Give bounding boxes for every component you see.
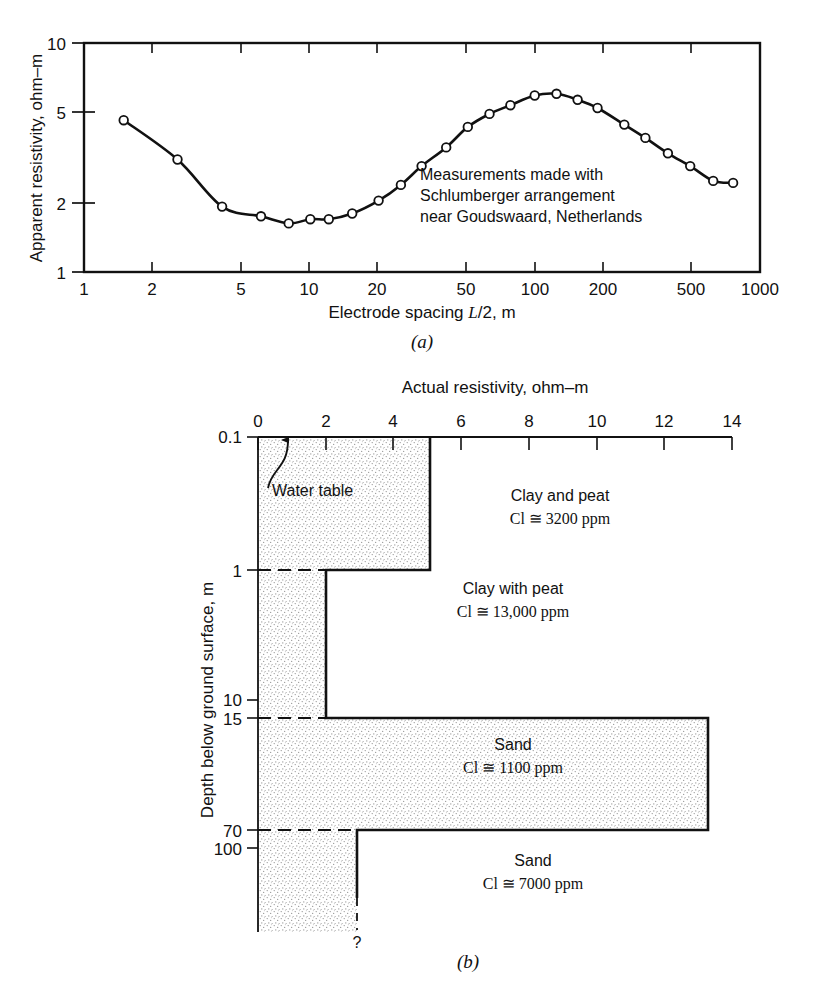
note-line: Schlumberger arrangement	[420, 187, 615, 204]
panel-a-x-axis-title: Electrode spacing L/2, m	[328, 303, 515, 322]
panel-a-x-tick-label: 200	[589, 280, 617, 299]
panel-b-y-axis-title: Depth below ground surface, m	[198, 582, 217, 818]
panel-b-y-tick-labels: 0.1 1 10 15 70 100	[214, 428, 242, 859]
panel-a-x-tick-label: 10	[300, 280, 319, 299]
data-point-marker	[620, 120, 629, 129]
panel-a-measurement-note: Measurements made with Schlumberger arra…	[420, 166, 642, 225]
layer-name: Sand	[494, 736, 531, 753]
data-point-marker	[464, 123, 473, 132]
panel-b-y-tick-label: 10	[223, 691, 242, 710]
panel-b-y-tick-label: 15	[223, 710, 242, 729]
panel-b-y-tick-label: 0.1	[218, 428, 242, 447]
note-line: Measurements made with	[420, 166, 603, 183]
panel-b-unknown-depth-marker: ?	[353, 934, 362, 951]
layer-cl: Cl ≅ 3200 ppm	[510, 510, 611, 528]
panel-b-layer-labels: Clay and peat Cl ≅ 3200 ppm Clay with pe…	[457, 487, 611, 893]
panel-b-x-tick-label: 4	[388, 412, 397, 431]
panel-a-y-tick-label: 2	[57, 195, 66, 214]
panel-b-x-tick-label: 14	[723, 412, 742, 431]
layer-name: Clay with peat	[463, 580, 564, 597]
data-point-marker	[573, 96, 582, 105]
data-point-marker	[173, 155, 182, 164]
data-point-marker	[485, 110, 494, 119]
panel-a-x-tick-label: 2	[147, 280, 156, 299]
data-point-marker	[284, 219, 293, 228]
panel-b-water-table-label: Water table	[272, 482, 353, 499]
panel-a-x-tick-label: 20	[368, 280, 387, 299]
panel-a-y-tick-label: 5	[57, 104, 66, 123]
data-point-marker	[641, 134, 650, 143]
panel-a-x-tick-labels: 1 2 5 10 20 50 100 200 500 1000	[79, 280, 779, 299]
figure-svg: Apparent resistivity, ohm–m 10 5 2 1	[0, 0, 813, 995]
panel-b-x-tick-label: 8	[524, 412, 533, 431]
panel-b-x-tick-label: 2	[321, 412, 330, 431]
panel-a-x-tick-label: 500	[677, 280, 705, 299]
data-point-marker	[397, 181, 406, 190]
panel-a-y-tick-label: 10	[47, 35, 66, 54]
panel-a-y-axis-title: Apparent resistivity, ohm–m	[27, 54, 46, 262]
panel-b-y-tick-label: 100	[214, 840, 242, 859]
panel-b-x-tick-label: 10	[588, 412, 607, 431]
panel-a: Apparent resistivity, ohm–m 10 5 2 1	[27, 35, 779, 353]
data-point-marker	[348, 209, 357, 218]
data-point-marker	[729, 179, 738, 188]
data-point-marker	[442, 143, 451, 152]
panel-a-caption: (a)	[411, 331, 433, 353]
panel-a-x-tick-label: 1	[79, 280, 88, 299]
panel-b-x-tick-label: 12	[655, 412, 674, 431]
data-point-marker	[257, 212, 266, 221]
panel-b-x-tick-label: 0	[253, 412, 262, 431]
layer-cl: Cl ≅ 1100 ppm	[463, 759, 564, 777]
note-line: near Goudswaard, Netherlands	[420, 208, 642, 225]
panel-a-y-tick-labels: 10 5 2 1	[47, 35, 66, 283]
panel-b-y-tick-label: 1	[233, 562, 242, 581]
panel-a-x-tick-label: 100	[521, 280, 549, 299]
data-point-marker	[374, 196, 383, 205]
panel-a-y-tick-label: 1	[57, 264, 66, 283]
data-point-marker	[325, 215, 334, 224]
panel-b-x-tick-label: 6	[456, 412, 465, 431]
panel-a-plot-frame	[84, 43, 760, 272]
layer-name: Sand	[514, 852, 551, 869]
data-point-marker	[709, 177, 718, 186]
data-point-marker	[306, 215, 315, 224]
panel-b-y-tick-label: 70	[223, 822, 242, 841]
panel-a-data-markers	[119, 90, 737, 228]
layer-cl: Cl ≅ 7000 ppm	[483, 875, 584, 893]
data-point-marker	[119, 116, 128, 125]
panel-a-x-ticks	[84, 43, 760, 272]
panel-b-x-tick-labels: 0 2 4 6 8 10 12 14	[253, 412, 741, 431]
panel-b-x-axis-title: Actual resistivity, ohm–m	[402, 378, 589, 397]
panel-b: Actual resistivity, ohm–m Depth below gr…	[198, 378, 741, 973]
panel-a-x-tick-label: 50	[457, 280, 476, 299]
figure-container: Apparent resistivity, ohm–m 10 5 2 1	[0, 0, 813, 995]
data-point-marker	[686, 162, 695, 171]
data-point-marker	[218, 202, 227, 211]
data-point-marker	[530, 91, 539, 100]
panel-b-y-ticks	[247, 437, 258, 848]
layer-name: Clay and peat	[511, 487, 610, 504]
panel-a-x-tick-label: 1000	[741, 280, 779, 299]
panel-b-caption: (b)	[457, 951, 479, 973]
layer-cl: Cl ≅ 13,000 ppm	[457, 603, 570, 621]
data-point-marker	[506, 101, 515, 110]
data-point-marker	[593, 104, 602, 113]
data-point-marker	[552, 90, 561, 99]
panel-a-x-tick-label: 5	[236, 280, 245, 299]
data-point-marker	[664, 149, 673, 158]
